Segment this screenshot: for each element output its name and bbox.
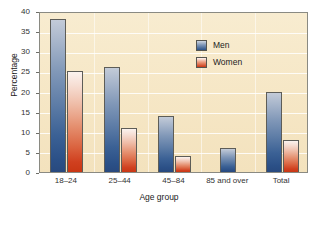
bar-men-1 (104, 67, 120, 172)
bar-men-4 (266, 92, 282, 173)
x-tick-label: 45–84 (147, 176, 201, 185)
bar-men-0 (50, 19, 66, 172)
legend-item-men: Men (196, 37, 242, 54)
bar-women-2 (175, 156, 191, 172)
bar-women-4 (283, 140, 299, 172)
y-tick-label: 15 (4, 109, 30, 117)
bar-men-2 (158, 116, 174, 172)
y-tick-label: 10 (4, 129, 30, 137)
group-divider (148, 13, 149, 172)
legend-label-men: Men (213, 41, 230, 50)
chart-legend: Men Women (196, 37, 242, 71)
x-tick-label: 85 and over (200, 176, 254, 185)
group-divider (255, 13, 256, 172)
y-tick-mark (36, 173, 39, 174)
x-axis-title: Age group (0, 192, 318, 202)
y-tick-label: 0 (4, 169, 30, 177)
men-swatch-icon (196, 40, 207, 51)
group-divider (94, 13, 95, 172)
y-tick-label: 35 (4, 28, 30, 36)
x-tick-label: Total (254, 176, 308, 185)
women-swatch-icon (196, 57, 207, 68)
legend-label-women: Women (213, 58, 242, 67)
x-tick-label: 18–24 (39, 176, 93, 185)
bar-men-3 (220, 148, 236, 172)
legend-item-women: Women (196, 54, 242, 71)
gridline (40, 53, 307, 54)
y-tick-label: 25 (4, 68, 30, 76)
bar-women-1 (121, 128, 137, 172)
y-tick-label: 30 (4, 48, 30, 56)
y-tick-label: 40 (4, 8, 30, 16)
bar-women-0 (67, 71, 83, 172)
y-tick-label: 20 (4, 89, 30, 97)
y-tick-label: 5 (4, 149, 30, 157)
x-tick-label: 25–44 (93, 176, 147, 185)
bar-chart: Percentage 0510152025303540 18–2425–4445… (0, 0, 318, 225)
plot-area (39, 12, 308, 173)
gridline (40, 33, 307, 34)
